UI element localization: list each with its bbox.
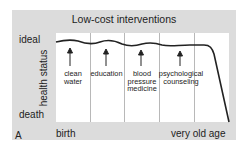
panel-letter: A [15,130,22,141]
arrow-up-icon [68,48,73,53]
arrow-up-icon [178,51,183,56]
arrow-up-icon [104,49,109,54]
arrow-up-icon [139,50,144,55]
intervention-label-education: education [88,70,125,78]
intervention-label-clean-water: clean water [58,70,88,85]
y-top-label: ideal [19,34,40,45]
y-bottom-label: death [19,109,44,120]
x-right-label: very old age [171,128,225,139]
intervention-label-blood-pressure-medicine: blood pressure medicine [124,70,160,93]
y-axis-title: health status [38,50,49,107]
x-left-label: birth [56,128,75,139]
intervention-label-psychological-counseling: psychological counseling [156,70,206,85]
